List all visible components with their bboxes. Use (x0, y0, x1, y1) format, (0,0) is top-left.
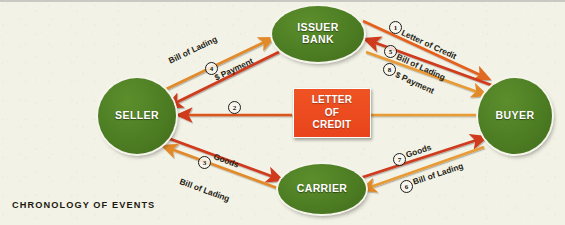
node-issuer-bank[interactable]: ISSUER BANK (272, 6, 364, 62)
step-marker-8: 8 (383, 63, 396, 76)
node-issuer-bank-line2: BANK (297, 34, 339, 46)
letter-of-credit-box[interactable]: LETTER OF CREDIT (293, 88, 371, 138)
step-marker-7: 7 (393, 153, 406, 166)
step-marker-1: 1 (389, 21, 402, 34)
step-marker-6: 6 (400, 180, 413, 193)
step-marker-4: 4 (205, 62, 218, 75)
node-carrier-label: CARRIER (297, 183, 348, 195)
node-seller[interactable]: SELLER (98, 78, 176, 154)
step-marker-3: 3 (198, 156, 211, 169)
chronology-of-events-heading: CHRONOLOGY OF EVENTS (12, 200, 155, 210)
node-seller-label: SELLER (115, 110, 159, 122)
step-marker-2: 2 (228, 101, 241, 114)
letter-of-credit-line2: OF (325, 107, 340, 120)
node-carrier[interactable]: CARRIER (278, 164, 366, 214)
letter-of-credit-line1: LETTER (312, 94, 353, 107)
step-marker-5: 5 (384, 45, 397, 58)
letter-of-credit-line3: CREDIT (312, 119, 351, 132)
node-buyer-label: BUYER (496, 110, 535, 122)
diagram-canvas: ISSUER BANK BUYER SELLER CARRIER LETTER … (0, 0, 565, 225)
node-buyer[interactable]: BUYER (478, 78, 552, 154)
